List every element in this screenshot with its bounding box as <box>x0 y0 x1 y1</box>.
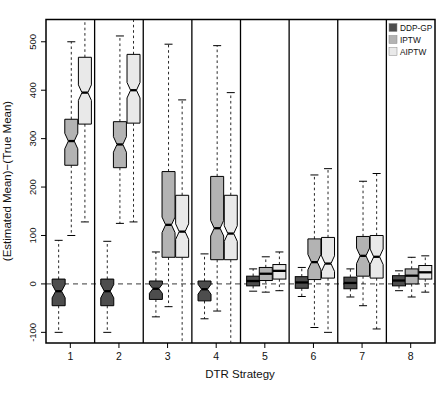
box-IPTW-4 <box>211 46 224 311</box>
box-AIPTW-7 <box>370 174 383 329</box>
box-AIPTW-4 <box>224 93 237 343</box>
box-IPTW-1 <box>65 42 78 236</box>
notched-box <box>211 176 224 259</box>
x-axis-label: DTR Strategy <box>205 368 275 380</box>
legend-label-IPTW: IPTW <box>400 35 421 45</box>
box-AIPTW-8 <box>419 256 432 292</box>
chart-layer: -100010020030040050012345678DDP-GPIPTWAI… <box>28 20 436 363</box>
notched-box <box>176 195 189 257</box>
notched-box <box>162 172 175 258</box>
x-tick-label-3: 3 <box>165 350 171 362</box>
notched-box <box>101 279 114 306</box>
box-AIPTW-6 <box>322 169 335 333</box>
box-AIPTW-5 <box>273 252 286 291</box>
box-DDP-GP-8 <box>393 271 406 291</box>
box-IPTW-5 <box>259 257 272 292</box>
box-AIPTW-1 <box>78 20 91 222</box>
box-IPTW-2 <box>113 36 126 223</box>
x-tick-label-1: 1 <box>67 350 73 362</box>
notched-box <box>78 57 91 124</box>
x-tick-label-7: 7 <box>359 350 365 362</box>
notched-box <box>65 119 78 165</box>
box-DDP-GP-7 <box>344 269 357 297</box>
y-tick-label-500: 500 <box>28 34 39 50</box>
box-DDP-GP-5 <box>247 269 260 291</box>
x-tick-label-2: 2 <box>116 350 122 362</box>
boxplot-figure: -100010020030040050012345678DDP-GPIPTWAI… <box>0 0 440 393</box>
box-DDP-GP-3 <box>149 252 162 317</box>
boxplot-chart: -100010020030040050012345678DDP-GPIPTWAI… <box>0 0 440 393</box>
legend-swatch-IPTW <box>389 36 397 44</box>
y-tick-label--100: -100 <box>28 323 39 342</box>
y-tick-label-0: 0 <box>28 281 39 286</box>
y-tick-label-100: 100 <box>28 228 39 244</box>
x-tick-label-5: 5 <box>262 350 268 362</box>
x-tick-label-4: 4 <box>213 350 219 362</box>
notched-box <box>224 195 237 259</box>
y-tick-label-400: 400 <box>28 82 39 98</box>
box-AIPTW-3 <box>176 100 189 343</box>
notched-box <box>149 281 162 299</box>
legend-label-AIPTW: AIPTW <box>400 47 426 57</box>
notched-box <box>198 281 211 301</box>
x-tick-label-6: 6 <box>311 350 317 362</box>
legend-swatch-DDP-GP <box>389 24 397 32</box>
notched-box <box>308 239 321 280</box>
y-tick-label-200: 200 <box>28 179 39 195</box>
legend-swatch-AIPTW <box>389 48 397 56</box>
box-DDP-GP-6 <box>295 267 308 296</box>
y-axis-label: (Estimated Mean)−(True Mean) <box>1 101 13 261</box>
box-AIPTW-2 <box>127 20 140 222</box>
legend-label-DDP-GP: DDP-GP <box>400 23 433 33</box>
box-DDP-GP-1 <box>52 240 65 332</box>
notched-box <box>127 54 140 123</box>
box-IPTW-3 <box>162 44 175 306</box>
x-tick-label-8: 8 <box>408 350 414 362</box>
box-DDP-GP-4 <box>198 254 211 319</box>
box-IPTW-7 <box>357 181 370 305</box>
box-IPTW-8 <box>405 257 418 297</box>
notched-box <box>52 279 65 306</box>
y-tick-label-300: 300 <box>28 131 39 147</box>
notched-box <box>322 237 335 278</box>
box-IPTW-6 <box>308 175 321 328</box>
box-DDP-GP-2 <box>101 241 114 332</box>
